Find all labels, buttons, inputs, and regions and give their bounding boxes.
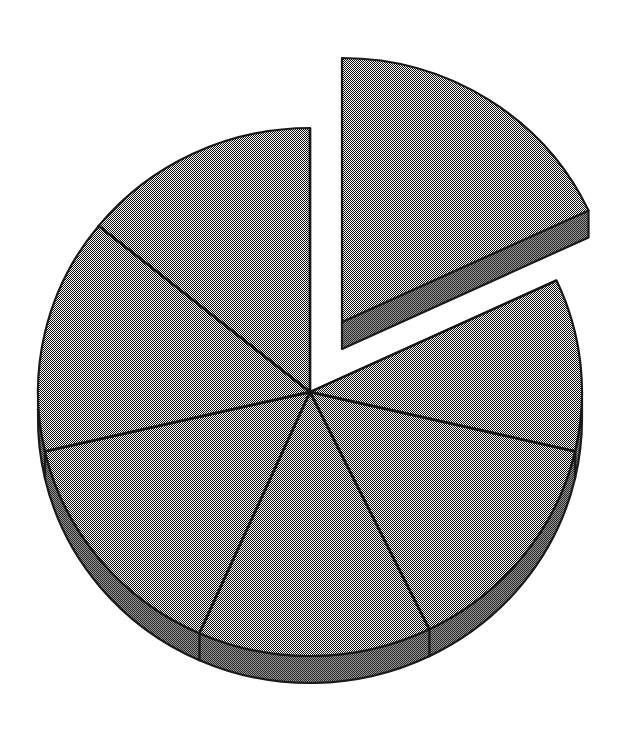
pie-slices-group — [38, 58, 589, 683]
pie-chart-canvas — [0, 0, 632, 735]
pie-chart-figure — [0, 0, 632, 735]
